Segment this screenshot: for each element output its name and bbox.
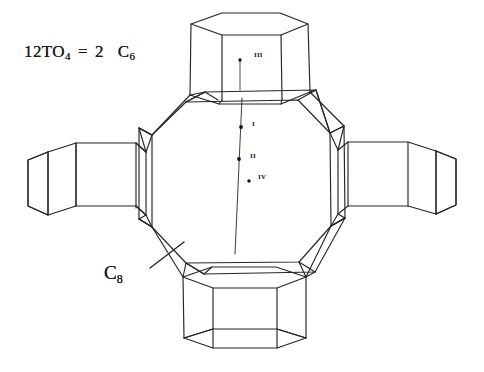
c8-annotation-label: C8: [104, 262, 123, 287]
central-axis-line: [235, 98, 242, 254]
site-dot-IV: [247, 179, 250, 182]
site-label-II: II: [250, 152, 256, 160]
arm-left-hexagonal-prism: [28, 128, 152, 227]
site-dot-II: [237, 157, 241, 161]
site-label-I: I: [252, 120, 255, 128]
formula-sub-1: 4: [65, 50, 71, 62]
formula-prefix: 12TO: [24, 42, 65, 61]
formula-sub-2: 6: [130, 50, 136, 62]
c8-subscript: 8: [117, 272, 123, 286]
polyhedron-wireframe: [28, 13, 456, 348]
site-label-IV: IV: [258, 173, 266, 181]
core-octagonal-prism: [139, 90, 345, 274]
site-dot-I: [239, 125, 243, 129]
formula-equals: =: [78, 42, 88, 61]
formula-species: C: [118, 42, 130, 61]
site-label-III: III: [254, 51, 263, 59]
arm-bottom-hexagonal-prism: [152, 226, 331, 348]
formula-coefficient: 2: [95, 42, 104, 61]
site-dot-III: [238, 58, 241, 61]
arm-top-hexagonal-prism: [152, 13, 344, 135]
arm-right-hexagonal-prism: [330, 126, 456, 226]
formula-label: 12TO4=2C6: [24, 42, 135, 62]
c8-species: C: [104, 262, 117, 283]
figure-canvas: 12TO4=2C6 C8 III I II IV: [0, 0, 484, 372]
